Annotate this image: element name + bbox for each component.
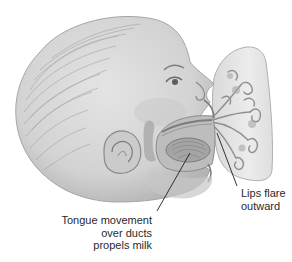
ear xyxy=(104,131,141,173)
tongue-annotation: Tongue movement over ducts propels milk xyxy=(62,214,153,252)
lips-annotation-line-1: Lips flare xyxy=(241,187,286,200)
tongue-annotation-line-3: propels milk xyxy=(62,239,153,252)
tongue-annotation-line-1: Tongue movement xyxy=(62,214,153,227)
lips-annotation-line-2: outward xyxy=(241,200,286,213)
lips-annotation: Lips flare outward xyxy=(241,187,286,212)
tongue-annotation-line-2: over ducts xyxy=(62,227,153,240)
baby-head xyxy=(16,16,215,202)
breast xyxy=(212,47,273,181)
